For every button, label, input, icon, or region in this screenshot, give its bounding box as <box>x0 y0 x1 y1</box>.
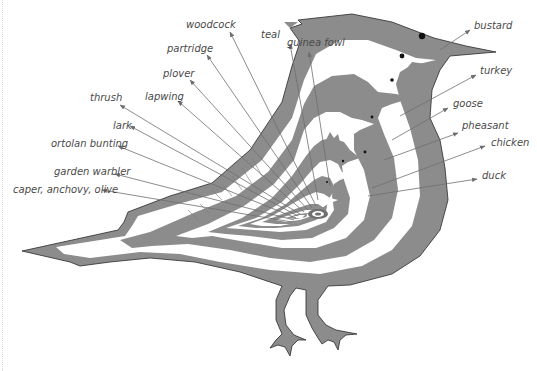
label-goose: goose <box>453 98 483 109</box>
label-thrush: thrush <box>90 92 122 103</box>
guinea-fowl-eye-icon <box>326 181 328 183</box>
label-teal: teal <box>261 29 280 40</box>
label-plover: plover <box>162 68 195 79</box>
label-caper-anchovy-olive: caper, anchovy, olive <box>13 184 118 195</box>
label-pheasant: pheasant <box>461 120 510 131</box>
label-lark: lark <box>113 120 133 131</box>
label-garden-warbler: garden warbler <box>54 166 131 177</box>
turkey-eye-icon <box>400 54 405 59</box>
goose-eye-icon <box>390 78 394 82</box>
pheasant-eye-icon <box>371 116 374 119</box>
chicken-eye-icon <box>364 151 367 154</box>
duck-eye-icon <box>342 160 344 162</box>
label-lapwing: lapwing <box>145 91 184 102</box>
label-guinea-fowl: guinea fowl <box>287 37 345 48</box>
label-woodcock: woodcock <box>186 19 237 30</box>
label-ortolan-bunting: ortolan bunting <box>51 138 128 149</box>
bustard-eye-icon <box>419 33 425 39</box>
label-bustard: bustard <box>474 20 513 31</box>
label-turkey: turkey <box>480 65 513 76</box>
label-chicken: chicken <box>491 137 529 148</box>
innermost-birds <box>308 209 328 219</box>
nested-birds-diagram: woodcock partridge plover lapwing thrush… <box>0 0 537 371</box>
label-partridge: partridge <box>166 43 213 54</box>
label-duck: duck <box>482 170 507 181</box>
